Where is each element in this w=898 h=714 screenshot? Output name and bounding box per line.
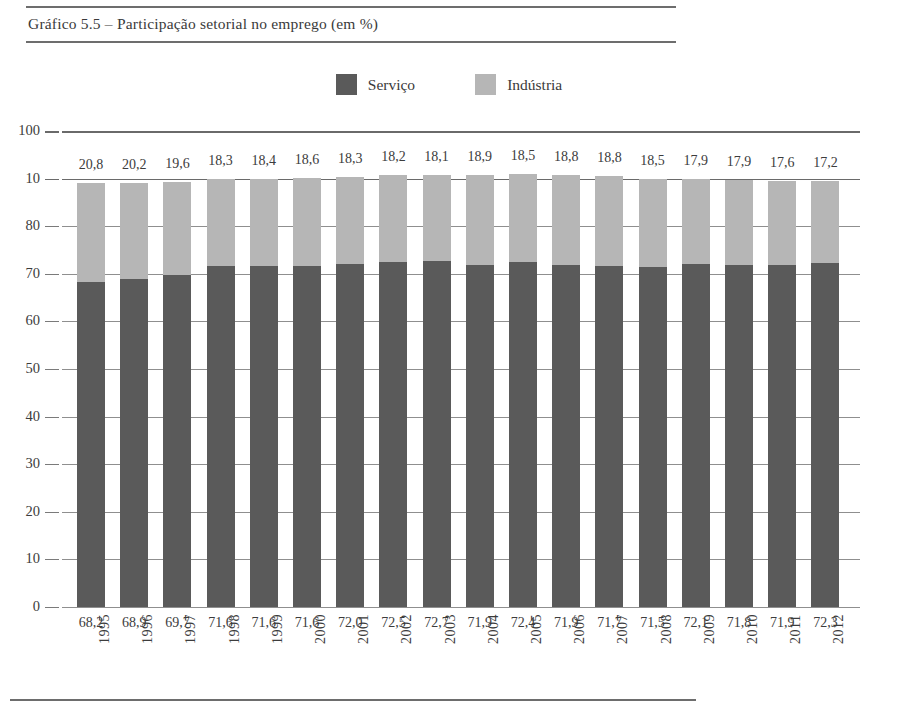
bar-segment-servico[interactable] xyxy=(379,262,407,607)
bar-segment-servico[interactable] xyxy=(336,264,364,607)
bar-segment-servico[interactable] xyxy=(509,262,537,607)
page-rule-bottom xyxy=(10,699,696,701)
bar-segment-industria[interactable] xyxy=(250,179,278,267)
bar-segment-industria[interactable] xyxy=(466,175,494,265)
bar-segment-servico[interactable] xyxy=(423,261,451,607)
plot-area: 1001080706050403020100 20,868,2199520,26… xyxy=(62,131,860,607)
y-axis-label: 70 xyxy=(26,265,41,282)
legend-item-servio: Serviço xyxy=(336,74,415,95)
bar-segment-servico[interactable] xyxy=(811,263,839,607)
figure-title-block: Gráfico 5.5 – Participação setorial no e… xyxy=(26,6,676,43)
legend-item-indstria: Indústria xyxy=(475,74,562,95)
y-axis-label: 10 xyxy=(26,170,41,187)
bar-series-container: 20,868,2199520,268,9199619,669,7199718,3… xyxy=(62,131,860,607)
chart-legend: ServiçoIndústria xyxy=(0,74,898,95)
bar-group[interactable] xyxy=(423,175,451,607)
bar-segment-servico[interactable] xyxy=(768,265,796,607)
bar-segment-industria[interactable] xyxy=(725,180,753,265)
bar-segment-industria[interactable] xyxy=(379,175,407,262)
y-tick-80 xyxy=(45,226,59,227)
y-tick-10 xyxy=(45,559,59,560)
bar-group[interactable] xyxy=(768,181,796,607)
bar-segment-servico[interactable] xyxy=(250,266,278,607)
bar-group[interactable] xyxy=(811,181,839,607)
y-axis-label: 80 xyxy=(26,217,41,234)
bar-segment-servico[interactable] xyxy=(163,275,191,607)
gridline-0 xyxy=(62,607,860,608)
bar-segment-industria[interactable] xyxy=(163,182,191,275)
legend-swatch-industria-icon xyxy=(475,74,496,95)
bar-group[interactable] xyxy=(725,180,753,607)
y-axis-label: 0 xyxy=(33,598,40,615)
y-axis-label: 20 xyxy=(26,503,41,520)
bar-group[interactable] xyxy=(595,176,623,607)
bar-segment-industria[interactable] xyxy=(811,181,839,263)
y-tick-20 xyxy=(45,512,59,513)
y-axis-label: 30 xyxy=(26,455,41,472)
bar-group[interactable] xyxy=(336,177,364,607)
legend-swatch-servico-icon xyxy=(336,74,357,95)
y-axis-label: 40 xyxy=(26,408,41,425)
bar-group[interactable] xyxy=(293,178,321,607)
bar-segment-servico[interactable] xyxy=(293,266,321,607)
bar-group[interactable] xyxy=(163,182,191,607)
bar-segment-servico[interactable] xyxy=(595,266,623,607)
y-tick-90 xyxy=(45,179,59,181)
bar-group[interactable] xyxy=(250,179,278,607)
y-axis-label: 60 xyxy=(26,313,41,330)
bar-segment-industria[interactable] xyxy=(293,178,321,267)
page-title: Gráfico 5.5 – Participação setorial no e… xyxy=(26,8,676,38)
bar-group[interactable] xyxy=(552,175,580,607)
bar-segment-industria[interactable] xyxy=(336,177,364,264)
bar-group[interactable] xyxy=(639,179,667,607)
y-tick-0 xyxy=(45,607,59,608)
bar-segment-industria[interactable] xyxy=(639,179,667,267)
bar-group[interactable] xyxy=(682,179,710,607)
y-tick-100 xyxy=(45,131,59,133)
bar-group[interactable] xyxy=(207,179,235,607)
bar-segment-servico[interactable] xyxy=(120,279,148,607)
title-rule-bottom xyxy=(26,41,676,43)
bar-group[interactable] xyxy=(466,175,494,607)
bar-group[interactable] xyxy=(509,174,537,607)
y-tick-30 xyxy=(45,464,59,465)
bar-segment-industria[interactable] xyxy=(509,174,537,262)
y-tick-60 xyxy=(45,321,59,322)
bar-segment-servico[interactable] xyxy=(639,267,667,607)
bar-group[interactable] xyxy=(77,183,105,607)
bar-segment-servico[interactable] xyxy=(725,265,753,607)
legend-label: Indústria xyxy=(507,76,562,94)
bar-segment-industria[interactable] xyxy=(207,179,235,266)
bar-group[interactable] xyxy=(120,183,148,607)
bar-segment-industria[interactable] xyxy=(595,176,623,265)
bar-value-label-industria: 17,2 xyxy=(797,155,853,171)
bar-segment-industria[interactable] xyxy=(423,175,451,261)
legend-label: Serviço xyxy=(368,76,415,94)
bar-segment-industria[interactable] xyxy=(768,181,796,265)
y-tick-50 xyxy=(45,369,59,370)
bar-segment-industria[interactable] xyxy=(77,183,105,282)
x-axis-label-2012: 2012 xyxy=(831,614,847,644)
y-axis-label: 50 xyxy=(26,360,41,377)
y-axis-label: 100 xyxy=(18,122,40,139)
bar-segment-servico[interactable] xyxy=(682,264,710,607)
bar-segment-servico[interactable] xyxy=(207,266,235,607)
bar-segment-industria[interactable] xyxy=(682,179,710,264)
y-axis-label: 10 xyxy=(26,551,41,568)
bar-segment-servico[interactable] xyxy=(552,265,580,607)
bar-group[interactable] xyxy=(379,175,407,607)
bar-segment-industria[interactable] xyxy=(552,175,580,264)
y-tick-40 xyxy=(45,417,59,418)
bar-segment-servico[interactable] xyxy=(466,265,494,607)
bar-segment-servico[interactable] xyxy=(77,282,105,607)
y-tick-70 xyxy=(45,274,59,275)
bar-segment-industria[interactable] xyxy=(120,183,148,279)
